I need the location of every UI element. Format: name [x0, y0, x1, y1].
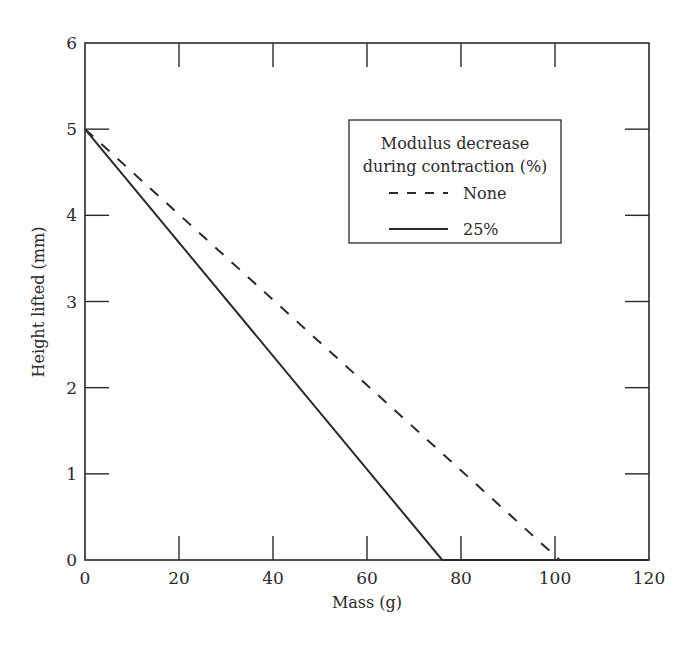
- y-tick-label: 3: [66, 292, 77, 312]
- chart: 020406080100120 0123456 Mass (g) Height …: [0, 0, 696, 647]
- legend-entry-25: 25%: [463, 220, 499, 239]
- x-tick-label: 60: [356, 568, 378, 588]
- y-axis-label: Height lifted (mm): [29, 227, 48, 378]
- x-tick-label: 80: [450, 568, 472, 588]
- x-tick-label: 100: [539, 568, 571, 588]
- y-tick-labels: 0123456: [66, 33, 77, 570]
- y-tick-label: 2: [66, 378, 77, 398]
- y-tick-label: 4: [66, 205, 77, 225]
- x-tick-label: 0: [80, 568, 91, 588]
- y-tick-label: 5: [66, 119, 77, 139]
- legend: Modulus decrease during contraction (%) …: [349, 120, 561, 243]
- legend-title-line1: Modulus decrease: [381, 134, 529, 153]
- x-tick-label: 40: [262, 568, 284, 588]
- x-tick-label: 20: [168, 568, 190, 588]
- y-tick-label: 1: [66, 464, 77, 484]
- x-axis-label: Mass (g): [332, 593, 402, 612]
- legend-entry-none: None: [463, 184, 506, 203]
- x-tick-label: 120: [633, 568, 665, 588]
- y-tick-label: 6: [66, 33, 77, 53]
- y-tick-label: 0: [66, 550, 77, 570]
- x-tick-labels: 020406080100120: [80, 568, 666, 588]
- legend-title-line2: during contraction (%): [363, 157, 548, 176]
